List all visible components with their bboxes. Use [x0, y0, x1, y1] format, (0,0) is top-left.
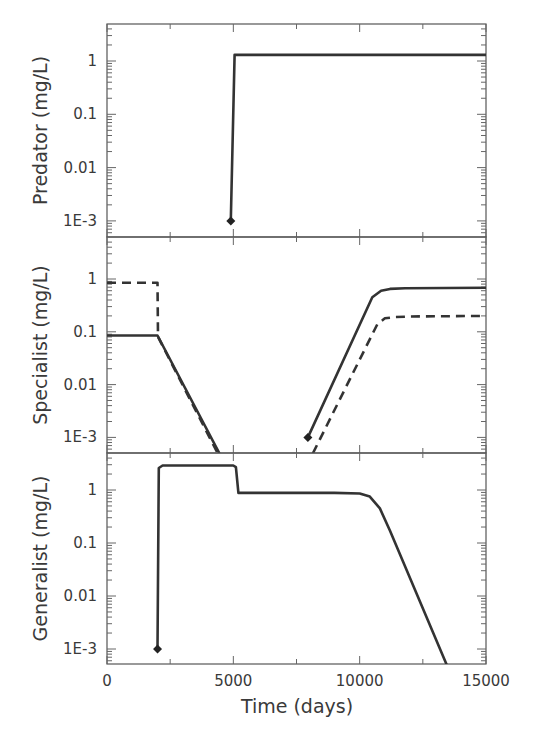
series-line	[158, 466, 447, 666]
y-tick-label: 1E-3	[63, 428, 97, 446]
y-tick-label: 0.1	[73, 534, 97, 552]
x-axis: 0 5000 10000 15000 Time (days)	[102, 672, 510, 717]
diamond-marker	[226, 216, 235, 225]
series-line-dashed	[107, 283, 486, 454]
panel-generalist: 10.10.011E-3Generalist (mg/L)	[29, 453, 486, 665]
x-tick-label: 0	[102, 672, 112, 690]
y-tick-label: 0.1	[73, 323, 97, 341]
diamond-marker	[153, 645, 162, 654]
y-tick-label: 1E-3	[63, 212, 97, 230]
diamond-marker	[303, 433, 312, 442]
y-tick-label: 1	[87, 481, 97, 499]
x-axis-title: Time (days)	[240, 695, 353, 717]
x-tick-label: 15000	[462, 672, 510, 690]
panels: 10.10.011E-3Predator (mg/L)10.10.011E-3S…	[29, 24, 486, 665]
series-line	[231, 55, 486, 221]
y-tick-label: 0.01	[64, 587, 97, 605]
y-axis-title: Generalist (mg/L)	[29, 476, 51, 642]
x-tick-label: 10000	[336, 672, 384, 690]
panel-frame	[107, 453, 486, 664]
y-tick-label: 0.01	[64, 159, 97, 177]
y-tick-label: 0.1	[73, 105, 97, 123]
series-line	[107, 288, 486, 454]
panel-specialist: 10.10.011E-3Specialist (mg/L)	[29, 237, 486, 453]
y-tick-label: 1	[87, 270, 97, 288]
y-tick-label: 1E-3	[63, 640, 97, 658]
y-axis-title: Predator (mg/L)	[29, 56, 51, 205]
y-tick-label: 1	[87, 52, 97, 70]
y-axis-title: Specialist (mg/L)	[29, 265, 51, 425]
y-tick-label: 0.01	[64, 376, 97, 394]
panel-predator: 10.10.011E-3Predator (mg/L)	[29, 24, 486, 237]
chart: 10.10.011E-3Predator (mg/L)10.10.011E-3S…	[0, 0, 539, 737]
x-tick-label: 5000	[214, 672, 252, 690]
